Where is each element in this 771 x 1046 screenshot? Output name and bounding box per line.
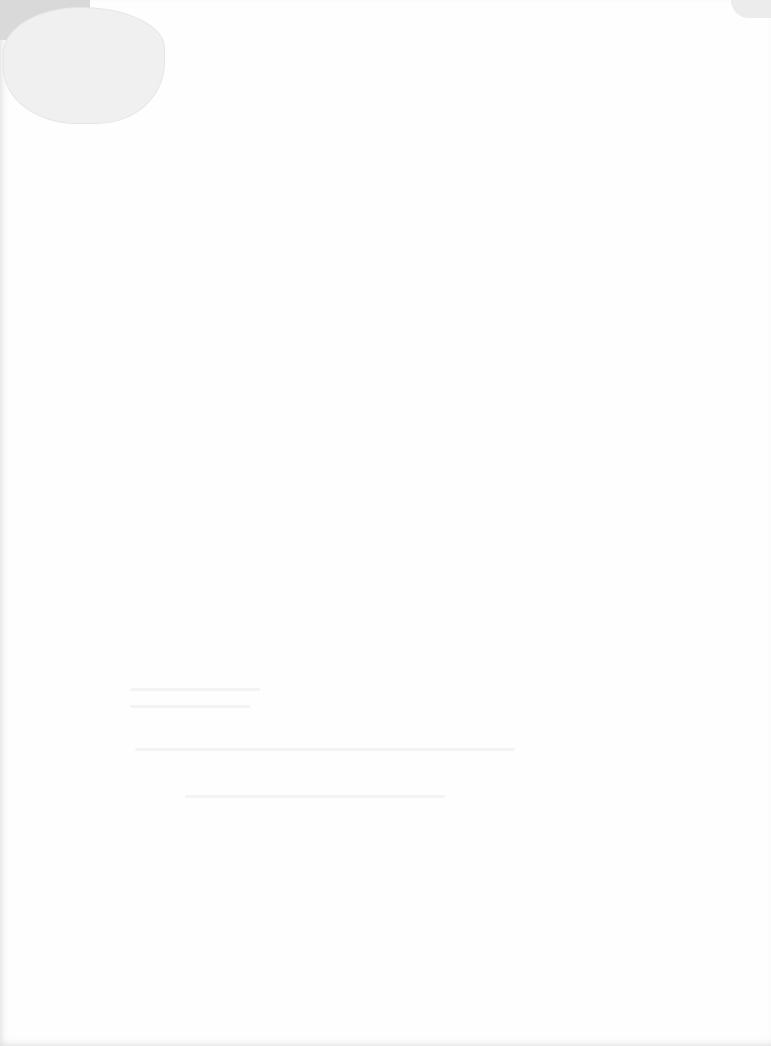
faded-text-line (135, 748, 515, 751)
document-page (0, 0, 771, 1046)
faded-text-line (130, 705, 250, 708)
faded-text-line (185, 795, 445, 798)
scan-corner-shadow-right (731, 0, 771, 18)
paper-stain (4, 8, 164, 123)
faded-text-line (130, 688, 260, 691)
